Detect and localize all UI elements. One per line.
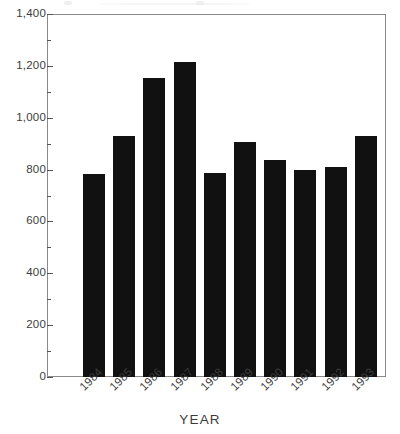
bar: [174, 62, 196, 377]
y-axis-tick: [47, 66, 53, 67]
y-axis-tick: [47, 118, 53, 119]
bar: [294, 170, 316, 377]
y-axis-label: 800: [26, 164, 46, 176]
bar: [234, 142, 256, 377]
y-axis-tick: [47, 273, 53, 274]
x-axis-title: YEAR: [0, 412, 400, 427]
bar: [113, 136, 135, 377]
bar: [264, 160, 286, 377]
y-axis-tick: [47, 325, 53, 326]
y-axis-label: 600: [26, 215, 46, 227]
y-axis-label: 200: [26, 319, 46, 331]
y-axis-minor-tick: [47, 247, 51, 248]
bar: [204, 173, 226, 377]
y-axis-minor-tick: [47, 196, 51, 197]
bar-chart: 02004006008001,0001,2001,400 19841985198…: [0, 0, 400, 434]
scan-artifact: [64, 1, 72, 5]
y-axis-label: 0: [39, 371, 46, 383]
bar: [355, 136, 377, 377]
bar: [325, 167, 347, 377]
bar: [83, 174, 105, 377]
y-axis-tick: [47, 221, 53, 222]
scan-artifact: [100, 3, 250, 5]
y-axis-label: 400: [26, 267, 46, 279]
y-axis-label: 1,200: [16, 60, 46, 72]
y-axis-minor-tick: [47, 299, 51, 300]
y-axis-minor-tick: [47, 92, 51, 93]
y-axis-tick: [47, 14, 53, 15]
y-axis-tick: [47, 377, 53, 378]
y-axis-minor-tick: [47, 351, 51, 352]
y-axis-label: 1,000: [16, 112, 46, 124]
y-axis-minor-tick: [47, 40, 51, 41]
bar: [143, 78, 165, 377]
y-axis-label: 1,400: [16, 8, 46, 20]
y-axis-tick: [47, 170, 53, 171]
y-axis-minor-tick: [47, 144, 51, 145]
